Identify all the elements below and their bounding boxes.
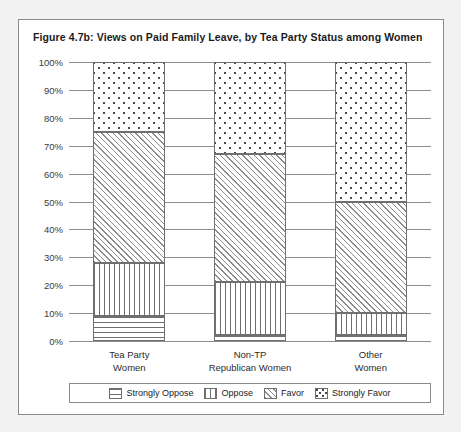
x-axis-label-line: Women — [64, 361, 194, 374]
y-axis-tick-label: 0% — [49, 336, 63, 347]
x-axis-label-line: Non-TP — [234, 349, 267, 360]
x-axis-label: OtherWomen — [306, 348, 436, 374]
bar-segment-strongly-favor[interactable] — [93, 62, 165, 132]
bar-segment-oppose[interactable] — [93, 263, 165, 316]
bar-segment-oppose[interactable] — [214, 282, 286, 335]
legend-label: Oppose — [221, 388, 253, 398]
legend-swatch-diagonal-hatch — [264, 388, 277, 399]
y-axis-tick-label: 90% — [44, 84, 63, 95]
y-axis-tick-label: 80% — [44, 112, 63, 123]
bar-segment-strongly-oppose[interactable] — [93, 316, 165, 341]
legend-swatch-vertical-lines — [204, 388, 217, 399]
bar-tea-party-women[interactable]: Tea PartyWomen — [93, 62, 165, 341]
legend-label: Strongly Oppose — [126, 388, 193, 398]
legend-swatch-horizontal-lines — [109, 388, 122, 399]
y-axis-tick-label: 60% — [44, 168, 63, 179]
bar-segment-strongly-oppose[interactable] — [214, 335, 286, 341]
figure-panel: Figure 4.7b: Views on Paid Family Leave,… — [18, 19, 444, 415]
y-axis-tick-label: 20% — [44, 280, 63, 291]
x-axis-label-line: Tea Party — [109, 349, 149, 360]
plot-area: 0%10%20%30%40%50%60%70%80%90%100% Tea Pa… — [69, 62, 431, 341]
bar-non-tp-republican-women[interactable]: Non-TPRepublican Women — [214, 62, 286, 341]
bar-other-women[interactable]: OtherWomen — [335, 62, 407, 341]
legend-item-favor[interactable]: Favor — [264, 388, 304, 399]
bar-segment-strongly-favor[interactable] — [214, 62, 286, 154]
bar-segment-favor[interactable] — [93, 132, 165, 263]
x-axis-label: Non-TPRepublican Women — [185, 348, 315, 374]
x-axis-label-line: Women — [306, 361, 436, 374]
x-axis-label: Tea PartyWomen — [64, 348, 194, 374]
gridline-0: 0% — [69, 341, 431, 342]
bar-segment-favor[interactable] — [335, 202, 407, 314]
legend-item-strongly-oppose[interactable]: Strongly Oppose — [109, 388, 193, 399]
y-axis-tick-label: 70% — [44, 140, 63, 151]
bar-segment-oppose[interactable] — [335, 313, 407, 335]
legend-item-oppose[interactable]: Oppose — [204, 388, 253, 399]
bar-segment-strongly-favor[interactable] — [335, 62, 407, 202]
y-axis-tick-label: 30% — [44, 252, 63, 263]
y-axis-tick-label: 100% — [39, 57, 63, 68]
chart-title: Figure 4.7b: Views on Paid Family Leave,… — [33, 31, 422, 43]
y-axis-tick-label: 10% — [44, 308, 63, 319]
figure-page: Figure 4.7b: Views on Paid Family Leave,… — [0, 0, 461, 432]
chart-legend: Strongly OpposeOpposeFavorStrongly Favor — [69, 383, 431, 403]
x-axis-label-line: Republican Women — [185, 361, 315, 374]
y-axis-tick-label: 40% — [44, 224, 63, 235]
bar-segment-favor[interactable] — [214, 154, 286, 282]
x-axis-label-line: Other — [359, 349, 383, 360]
legend-swatch-dots — [315, 388, 328, 399]
legend-item-strongly-favor[interactable]: Strongly Favor — [315, 388, 391, 399]
legend-label: Strongly Favor — [332, 388, 391, 398]
legend-label: Favor — [281, 388, 304, 398]
y-axis-tick-label: 50% — [44, 196, 63, 207]
bar-segment-strongly-oppose[interactable] — [335, 335, 407, 341]
